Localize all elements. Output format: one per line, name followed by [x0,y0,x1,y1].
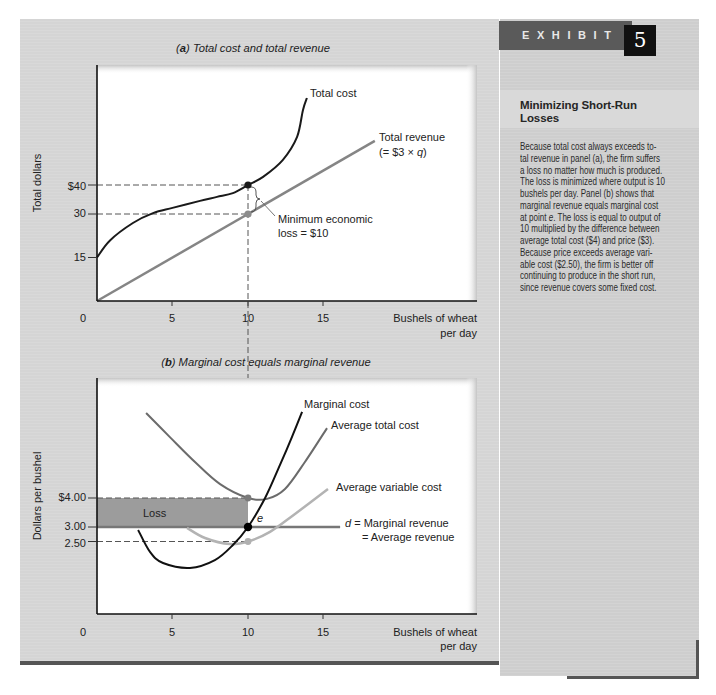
y-tick-label: 30 [74,207,86,219]
marginal-revenue-label: d = Marginal revenue [345,517,449,529]
label-text: = Marginal revenue [351,517,449,529]
plot-shadow-top [97,65,477,74]
x-axis-label: per day [440,640,477,652]
x-axis-label: Bushels of wheat [393,312,477,324]
formula-text: ) [423,146,427,158]
title-text: ) Total cost and total revenue [184,42,330,54]
total-cost-label: Total cost [310,87,356,99]
exhibit-figure: (a) Total cost and total revenue 0 5 10 … [0,0,716,695]
x-tick-label: 0 [80,626,86,638]
x-tick-label: 5 [169,312,175,324]
plot-shadow-top [97,378,477,387]
x-tick-label: 15 [317,312,329,324]
y-tick-label: $40 [68,180,86,192]
loss-annotation: loss = $10 [278,227,328,239]
x-tick-label: 10 [242,312,254,324]
y-tick-label: 2.50 [65,537,86,549]
x-tick-label: 0 [80,312,86,324]
plot-area [97,378,477,614]
loss-label: Loss [143,507,167,519]
y-tick-label: 15 [74,251,86,263]
y-axis-label: Total dollars [31,153,43,212]
formula-text: (= $3 × [379,146,417,158]
x-tick-label: 10 [242,626,254,638]
x-axis-label: per day [440,327,477,339]
panel-b-plot [88,378,477,619]
panel-b-title: (b) Marginal cost equals marginal revenu… [161,356,371,368]
average-revenue-label: = Average revenue [362,531,454,543]
plot-shadow-right [466,65,477,301]
x-tick-label: 5 [169,626,175,638]
loss-region [97,498,248,527]
avc-point [245,538,252,545]
total-revenue-label: Total revenue [379,131,445,143]
y-axis-label: Dollars per bushel [31,452,43,541]
total-revenue-point [244,210,251,217]
average-variable-cost-label: Average variable cost [336,481,442,493]
title-text: ) Marginal cost equals marginal revenue [170,356,371,368]
point-e-label: e [257,512,263,524]
y-tick-label: 3.00 [65,520,86,532]
plot-area [97,65,477,301]
loss-annotation: Minimum economic [278,213,373,225]
marginal-cost-label: Marginal cost [304,398,369,410]
total-cost-point [244,181,251,188]
average-total-cost-label: Average total cost [331,419,419,431]
panel-a-plot [88,65,477,306]
atc-point [245,495,252,502]
x-tick-label: 15 [317,626,329,638]
y-tick-label: $4.00 [58,491,86,503]
plot-shadow-right [466,378,477,614]
panel-a-title: (a) Total cost and total revenue [176,42,330,54]
equilibrium-point-e [244,523,252,531]
x-axis-label: Bushels of wheat [393,626,477,638]
total-revenue-formula: (= $3 × q) [379,146,427,158]
